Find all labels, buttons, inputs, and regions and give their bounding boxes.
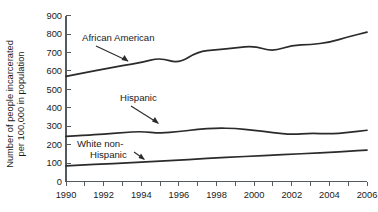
x-tick-label-2004: 2004 — [319, 190, 340, 200]
annotation-arrow-hispanic — [152, 117, 159, 124]
annotation-label-white-non-hispanic-line-2: Hispanic — [90, 149, 127, 160]
y-tick-label-400: 400 — [46, 103, 62, 113]
x-tick-label-1994: 1994 — [131, 190, 152, 200]
y-axis-tick-labels: 0 100 200 300 400 500 600 700 800 900 — [46, 11, 62, 187]
x-tick-label-2006: 2006 — [357, 190, 378, 200]
y-tick-label-100: 100 — [46, 158, 62, 168]
y-tick-label-500: 500 — [46, 85, 62, 95]
annotation-arrow-white-non-hispanic — [139, 154, 146, 161]
x-tick-label-1998: 1998 — [206, 190, 227, 200]
annotation-arrow-african-american — [122, 55, 129, 62]
y-tick-label-0: 0 — [57, 177, 62, 187]
y-tick-label-800: 800 — [46, 29, 62, 39]
x-axis-ticks — [66, 182, 367, 187]
y-tick-label-300: 300 — [46, 121, 62, 131]
x-tick-label-1992: 1992 — [93, 190, 114, 200]
x-axis-tick-labels: 1990 1992 1994 1996 1998 2000 2002 2004 … — [56, 190, 378, 200]
annotation-hispanic: Hispanic — [120, 92, 159, 124]
incarceration-rate-line-chart: Number of people incarcerated per 100,00… — [0, 0, 378, 212]
y-axis-title-line-1: Number of people incarcerated — [5, 40, 15, 168]
series-line-hispanic — [66, 128, 367, 136]
x-tick-label-1996: 1996 — [169, 190, 190, 200]
y-tick-label-600: 600 — [46, 66, 62, 76]
x-tick-label-1990: 1990 — [56, 190, 77, 200]
x-tick-label-2000: 2000 — [244, 190, 265, 200]
annotation-white-non-hispanic: White non- Hispanic — [77, 138, 145, 160]
y-tick-label-200: 200 — [46, 140, 62, 150]
y-tick-label-900: 900 — [46, 11, 62, 21]
y-tick-label-700: 700 — [46, 48, 62, 58]
annotation-label-hispanic: Hispanic — [120, 92, 157, 103]
y-axis-ticks — [66, 16, 71, 182]
y-axis-title-line-2: per 100,000 in population — [16, 52, 26, 157]
y-axis-title: Number of people incarcerated per 100,00… — [5, 40, 26, 168]
annotation-african-american: African American — [82, 32, 155, 62]
chart-figure: Number of people incarcerated per 100,00… — [0, 0, 378, 212]
x-tick-label-2002: 2002 — [281, 190, 302, 200]
annotation-label-african-american: African American — [82, 32, 155, 43]
annotation-label-white-non-hispanic-line-1: White non- — [77, 138, 123, 149]
